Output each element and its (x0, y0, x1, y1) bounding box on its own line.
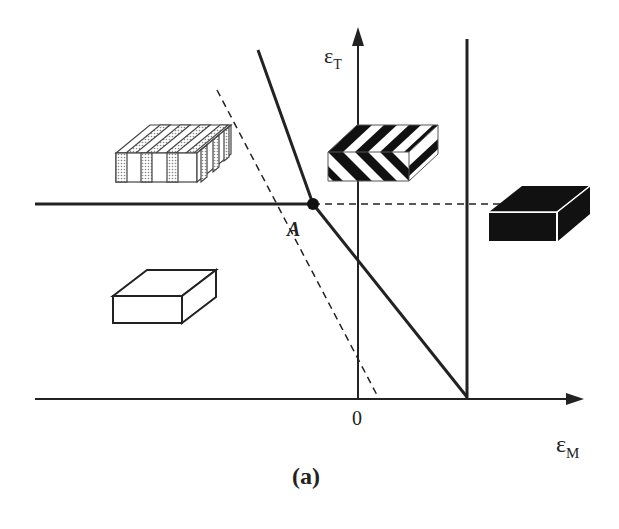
solid-diagonal-lower-line (313, 204, 467, 397)
phase-diagram: A εT εM 0 (a) (0, 0, 619, 529)
point-a-marker (307, 198, 319, 210)
solid-diagonal-line (258, 50, 313, 204)
white-block (113, 270, 216, 323)
y-axis (352, 27, 364, 399)
origin-label: 0 (352, 407, 362, 429)
black-block (489, 186, 590, 241)
striped-block (116, 125, 231, 182)
chevron-block (328, 125, 440, 181)
y-axis-label: εT (324, 43, 342, 72)
point-a-label: A (285, 218, 300, 240)
x-axis-label: εM (556, 431, 579, 461)
figure-caption: (a) (292, 463, 320, 489)
x-axis (35, 393, 584, 405)
